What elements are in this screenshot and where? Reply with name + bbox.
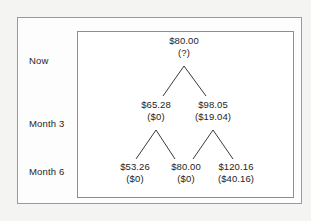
node-value: $98.05 bbox=[195, 99, 231, 111]
tree-node-m6-down-down: $120.16 ($40.16) bbox=[218, 161, 254, 185]
figure-canvas: Now Month 3 Month 6 $80.00 (?) $65.28 ($… bbox=[0, 0, 311, 221]
tree-node-root: $80.00 (?) bbox=[169, 35, 199, 59]
node-value: $80.00 bbox=[169, 35, 199, 47]
node-payoff: ($0) bbox=[120, 173, 150, 185]
period-label-month-6: Month 6 bbox=[29, 166, 64, 177]
period-label-now: Now bbox=[29, 55, 48, 66]
node-payoff: (?) bbox=[169, 47, 199, 59]
tree-node-m6-up-up: $53.26 ($0) bbox=[120, 161, 150, 185]
tree-node-m6-up-down: $80.00 ($0) bbox=[171, 161, 201, 185]
node-payoff: ($19.04) bbox=[195, 111, 231, 123]
node-payoff: ($0) bbox=[141, 111, 171, 123]
node-payoff: ($0) bbox=[171, 173, 201, 185]
period-label-month-3: Month 3 bbox=[29, 118, 64, 129]
node-value: $80.00 bbox=[171, 161, 201, 173]
node-value: $53.26 bbox=[120, 161, 150, 173]
tree-node-m3-up: $65.28 ($0) bbox=[141, 99, 171, 123]
node-payoff: ($40.16) bbox=[218, 173, 254, 185]
node-value: $120.16 bbox=[218, 161, 254, 173]
node-value: $65.28 bbox=[141, 99, 171, 111]
tree-node-m3-down: $98.05 ($19.04) bbox=[195, 99, 231, 123]
